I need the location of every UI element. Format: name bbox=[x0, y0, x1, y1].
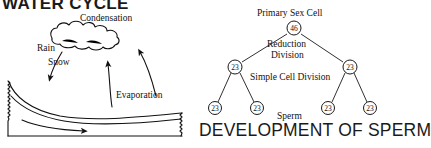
node-leaf-1: 23 bbox=[209, 102, 222, 115]
node-leaf-3: 23 bbox=[322, 102, 335, 115]
node-label-leaf-2: 23 bbox=[253, 104, 261, 113]
label-division: Division bbox=[271, 51, 304, 61]
node-primary-sex-cell: 46 bbox=[287, 21, 301, 35]
edge-right-to-leaf3 bbox=[332, 73, 345, 102]
node-label-leaf-1: 23 bbox=[211, 104, 219, 113]
river-flow-arrow bbox=[22, 120, 84, 131]
node-leaf-4: 23 bbox=[364, 102, 377, 115]
evaporation-arrow-center bbox=[108, 64, 112, 107]
label-simple-cell-division: Simple Cell Division bbox=[250, 73, 330, 83]
water-cycle-diagram: WATER CYCLE Condensation Rain Snow Evapo… bbox=[0, 0, 196, 148]
label-snow: Snow bbox=[48, 58, 70, 68]
node-label-leaf-3: 23 bbox=[324, 104, 332, 113]
label-reduction: Reduction bbox=[267, 40, 306, 50]
edge-root-to-right bbox=[301, 34, 343, 62]
label-evaporation: Evaporation bbox=[116, 91, 162, 101]
sperm-development-diagram: 46 23 23 23 23 23 23 Primary Sex Cell bbox=[195, 0, 391, 148]
label-primary-sex-cell: Primary Sex Cell bbox=[257, 9, 322, 19]
label-rain: Rain bbox=[37, 44, 55, 54]
node-leaf-2: 23 bbox=[251, 102, 264, 115]
node-label-root: 46 bbox=[290, 24, 298, 33]
node-label-mid-left: 23 bbox=[231, 63, 239, 72]
edge-left-to-leaf1 bbox=[218, 73, 231, 102]
water-cycle-title: WATER CYCLE bbox=[2, 0, 129, 12]
node-label-mid-right: 23 bbox=[346, 63, 354, 72]
cloud-shape bbox=[51, 21, 119, 50]
node-label-leaf-4: 23 bbox=[366, 104, 374, 113]
edge-right-to-leaf4 bbox=[354, 73, 367, 102]
sperm-development-title: DEVELOPMENT OF SPERM bbox=[199, 122, 431, 140]
node-mid-left: 23 bbox=[228, 60, 242, 74]
label-condensation: Condensation bbox=[80, 14, 132, 24]
node-mid-right: 23 bbox=[343, 60, 357, 74]
